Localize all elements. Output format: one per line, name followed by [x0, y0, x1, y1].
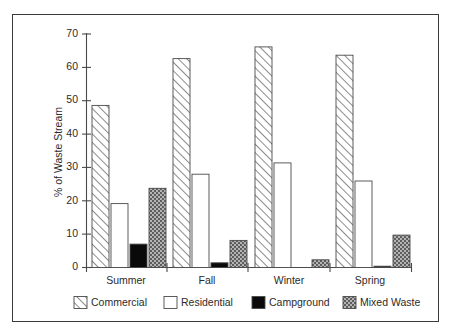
bar-group-summer — [92, 105, 166, 267]
legend-label-residential: Residential — [181, 296, 233, 308]
bar-spring-residential[interactable] — [355, 181, 372, 268]
bar-summer-mixed-waste[interactable] — [149, 188, 166, 267]
legend-item-mixed-waste[interactable]: Mixed Waste — [343, 296, 420, 309]
bar-winter-mixed-waste[interactable] — [312, 260, 329, 268]
chart-figure: 0 10 20 30 40 50 60 70 % of Waste Stream — [0, 0, 453, 334]
x-label-fall: Fall — [199, 274, 216, 286]
legend-label-commercial: Commercial — [91, 296, 147, 308]
legend-swatch-residential — [164, 297, 177, 309]
y-tick-label-20: 20 — [66, 194, 78, 206]
x-axis-category-labels: Summer Fall Winter Spring — [106, 274, 385, 286]
legend-item-residential[interactable]: Residential — [164, 296, 233, 309]
y-tick-label-30: 30 — [66, 160, 78, 172]
x-label-winter: Winter — [274, 274, 305, 286]
y-tick-label-10: 10 — [66, 227, 78, 239]
legend-swatch-commercial — [74, 297, 87, 309]
y-axis-label: % of Waste Stream — [52, 107, 64, 197]
bar-group-fall — [173, 59, 247, 268]
bar-fall-campground[interactable] — [211, 263, 228, 268]
legend-label-campground: Campground — [269, 296, 330, 308]
bar-fall-residential[interactable] — [192, 174, 209, 267]
y-tick-label-60: 60 — [66, 60, 78, 72]
y-axis-tick-labels: 0 10 20 30 40 50 60 70 — [66, 27, 78, 273]
bar-summer-residential[interactable] — [111, 204, 128, 268]
y-tick-label-40: 40 — [66, 127, 78, 139]
bars — [92, 47, 410, 268]
y-tick-label-0: 0 — [72, 260, 78, 272]
bar-group-spring — [336, 55, 410, 267]
bar-fall-mixed-waste[interactable] — [230, 240, 247, 267]
bar-summer-campground[interactable] — [130, 244, 147, 267]
bar-summer-commercial[interactable] — [92, 105, 109, 267]
legend-item-commercial[interactable]: Commercial — [74, 296, 147, 309]
y-tick-label-50: 50 — [66, 93, 78, 105]
bar-fall-commercial[interactable] — [173, 59, 190, 268]
bar-group-winter — [255, 47, 329, 268]
x-label-summer: Summer — [106, 274, 146, 286]
y-tick-label-70: 70 — [66, 27, 78, 39]
bar-spring-campground[interactable] — [374, 266, 391, 267]
legend-swatch-campground — [252, 297, 265, 309]
bar-winter-commercial[interactable] — [255, 47, 272, 268]
bar-winter-residential[interactable] — [274, 163, 291, 268]
bar-spring-commercial[interactable] — [336, 55, 353, 267]
legend-label-mixed-waste: Mixed Waste — [360, 296, 420, 308]
bar-chart: 0 10 20 30 40 50 60 70 % of Waste Stream — [0, 0, 453, 334]
legend-swatch-mixed-waste — [343, 297, 356, 309]
chart-legend: Commercial Residential Campground Mixed … — [74, 296, 420, 309]
legend-item-campground[interactable]: Campground — [252, 296, 330, 309]
x-label-spring: Spring — [355, 274, 386, 286]
y-axis: 0 10 20 30 40 50 60 70 % of Waste Stream — [52, 27, 91, 273]
bar-spring-mixed-waste[interactable] — [393, 235, 410, 267]
